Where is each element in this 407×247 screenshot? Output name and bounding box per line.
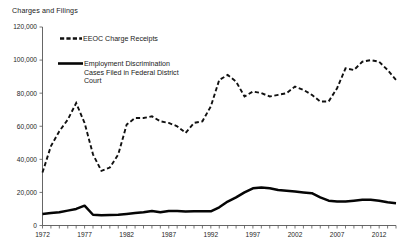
series-line-employment-discrimination-cases [43,187,397,215]
legend-label-eeoc-charge-receipts: EEOC Charge Receipts [83,35,158,43]
chart-legend: EEOC Charge Receipts Employment Discrimi… [58,35,179,85]
y-tick-label: 120,000 [13,23,37,30]
x-tick-label: 2002 [288,231,303,238]
y-tick-labels: 020,00040,00060,00080,000100,000120,000 [13,23,37,229]
legend-label-employment-cases-line1: Employment Discrimination [84,60,170,68]
legend-label-employment-cases-line3: Court [84,77,101,85]
x-tick-label: 1992 [203,231,218,238]
x-tick-labels: 197219771982198719921997200220072012 [35,231,387,238]
legend-label-employment-cases-line2: Cases Filed in Federal District [84,69,179,77]
x-tick-label: 1977 [77,231,92,238]
y-axis: 020,00040,00060,00080,000100,000120,000 [13,23,42,229]
y-tick-label: 0 [33,222,37,229]
x-tick-label: 1982 [119,231,134,238]
y-tick-label: 60,000 [17,123,38,130]
x-tick-label: 1997 [246,231,261,238]
x-tick-label: 2007 [330,231,345,238]
y-tick-label: 40,000 [17,156,38,163]
x-tick-label: 1972 [35,231,50,238]
x-tick-label: 1987 [161,231,176,238]
y-tick-label: 100,000 [13,56,37,63]
chart-container: Charges and Filings 020,00040,00060,0008… [0,0,407,247]
x-axis: 197219771982198719921997200220072012 [35,226,396,239]
chart-plot-area: 020,00040,00060,00080,000100,000120,000 … [0,0,407,247]
x-tick-label: 2012 [372,231,387,238]
y-tick-label: 80,000 [17,90,38,97]
y-tick-label: 20,000 [17,189,38,196]
